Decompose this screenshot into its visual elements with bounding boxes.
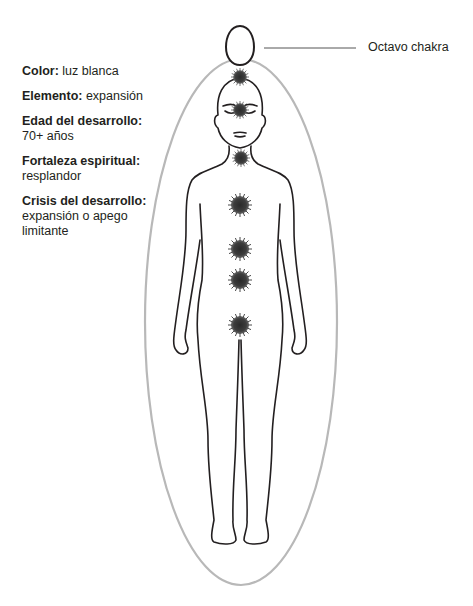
root-chakra — [228, 313, 252, 337]
crown-chakra — [231, 68, 249, 86]
human-body-outline — [174, 78, 307, 544]
solar-plexus-chakra — [228, 237, 252, 261]
sacral-chakra — [228, 268, 252, 292]
eighth-chakra-egg — [226, 26, 254, 65]
chakra-points — [228, 68, 252, 337]
throat-chakra — [232, 149, 250, 167]
heart-chakra — [228, 193, 252, 217]
third-eye-chakra — [231, 101, 249, 119]
chakra-body-diagram — [0, 0, 473, 606]
